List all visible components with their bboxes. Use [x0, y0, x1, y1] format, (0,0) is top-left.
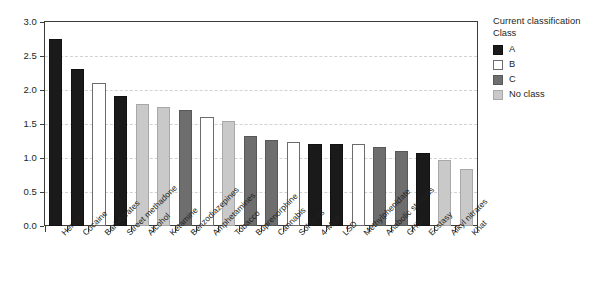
bar[interactable] [71, 69, 84, 226]
x-axis-category-label: Alkyl nitrates [449, 231, 455, 237]
x-axis-category-label: Solvents [297, 231, 303, 237]
legend-item-label: B [509, 60, 515, 69]
legend-item[interactable]: A [493, 42, 605, 57]
bar-slot [330, 22, 343, 226]
x-axis-category-label: Amphetamines [211, 231, 217, 237]
legend-swatch-icon [493, 75, 503, 85]
bar-slot [200, 22, 213, 226]
legend-item[interactable]: B [493, 57, 605, 72]
legend-item-label: C [509, 75, 516, 84]
x-axis-category-label: GHB [405, 231, 411, 237]
legend-item[interactable]: No class [493, 87, 605, 102]
x-axis-category-label: Ketamine [168, 231, 174, 237]
bar-slot [92, 22, 105, 226]
x-axis-category-label: Barbiturates [103, 231, 109, 237]
bar-slot [179, 22, 192, 226]
y-axis-tick-label: 2.5 [23, 51, 37, 61]
bar-slot [460, 22, 473, 226]
legend-swatch-icon [493, 45, 503, 55]
x-axis-category-label: Cannabis [276, 231, 282, 237]
x-axis-category-label: Khat [470, 231, 476, 237]
legend-swatch-icon [493, 90, 503, 100]
bar-slot [265, 22, 278, 226]
bar[interactable] [49, 39, 62, 226]
x-axis-category-label: Street methadone [125, 231, 131, 237]
x-axis-category-label: Benzodiazepines [189, 231, 195, 237]
y-axis-tick-mark [40, 226, 44, 227]
y-axis-tick-label: 1.0 [23, 153, 37, 163]
x-axis-labels: HeroinCocaineBarbituratesStreet methadon… [45, 231, 477, 299]
legend-item-label: A [509, 45, 515, 54]
bar[interactable] [92, 83, 105, 226]
bar-slot [114, 22, 127, 226]
legend: Current classification Class ABCNo class [493, 16, 605, 102]
bar-slot [373, 22, 386, 226]
legend-swatch-icon [493, 60, 503, 70]
y-axis-tick-label: 3.0 [23, 17, 37, 27]
x-axis-category-label: 4-MTA [319, 231, 325, 237]
drug-harm-bar-chart: 0.00.51.01.52.02.53.0 HeroinCocaineBarbi… [0, 0, 607, 299]
x-axis-category-label: Cocaine [81, 231, 87, 237]
x-axis-category-label: Ecstasy [427, 231, 433, 237]
legend-title: Current classification [493, 16, 605, 28]
bar-slot [71, 22, 84, 226]
bars-layer [45, 22, 477, 226]
y-axis-tick-label: 0.0 [23, 221, 37, 231]
bar-slot [438, 22, 451, 226]
bar-slot [136, 22, 149, 226]
y-axis: 0.00.51.01.52.02.53.0 [0, 0, 44, 247]
x-axis-category-label: Alcohol [146, 231, 152, 237]
legend-subtitle: Class [493, 28, 605, 40]
legend-item-label: No class [509, 90, 545, 99]
x-axis-category-label: LSD [341, 231, 347, 237]
y-axis-tick-label: 2.0 [23, 85, 37, 95]
x-axis-category-label: Methylphenidate [362, 231, 368, 237]
x-axis-category-label: Buprenorphine [254, 231, 260, 237]
y-axis-tick-label: 0.5 [23, 187, 37, 197]
y-axis-tick-label: 1.5 [23, 119, 37, 129]
bar[interactable] [352, 144, 365, 226]
bar-slot [352, 22, 365, 226]
bar-slot [308, 22, 321, 226]
x-axis-category-label: Anabolic steroids [384, 231, 390, 237]
x-axis-category-label: Tobacco [233, 231, 239, 237]
legend-item[interactable]: C [493, 72, 605, 87]
bar-slot [49, 22, 62, 226]
legend-items: ABCNo class [493, 42, 605, 102]
x-axis-category-label: Heroin [60, 231, 66, 237]
